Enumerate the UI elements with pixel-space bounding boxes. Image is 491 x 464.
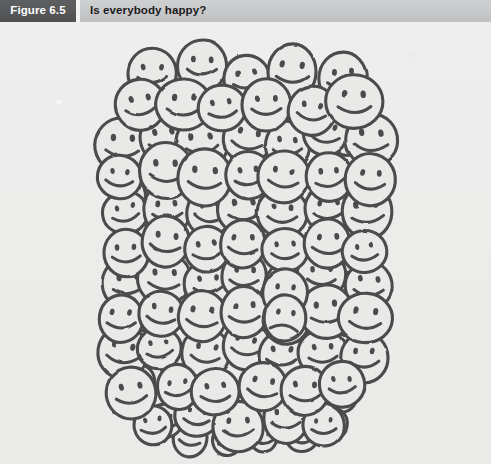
face-outline [96, 154, 143, 201]
smiley-face [341, 229, 389, 274]
smiley-face [242, 79, 291, 132]
figure-number-label: Figure 6.5 [10, 5, 65, 17]
smiley-face [221, 287, 267, 338]
face-outline [219, 218, 267, 269]
figure-title: Is everybody happy? [90, 5, 206, 17]
face-outline [99, 295, 143, 343]
face-outline [177, 148, 233, 207]
smiley-crowd-illustration [0, 22, 491, 464]
smiley-face [96, 154, 143, 201]
face-eye [209, 57, 214, 64]
face-outline [242, 79, 291, 132]
face-outline [341, 229, 389, 274]
face-outline [221, 287, 267, 338]
face-outline [318, 360, 366, 409]
smiley-face [99, 295, 143, 343]
face-outline [325, 74, 384, 129]
smiley-face [318, 360, 366, 409]
figure-caption-bar: Figure 6.5 Is everybody happy? [0, 0, 491, 22]
face-outline [190, 368, 240, 416]
smiley-face [177, 148, 233, 207]
face-outline [262, 228, 309, 271]
figure-number-box: Figure 6.5 [0, 0, 76, 22]
smiley-face [325, 74, 384, 129]
figure-artwork-region [0, 22, 491, 464]
smiley-face [219, 218, 267, 269]
smiley-face [190, 368, 240, 416]
figure-page: Figure 6.5 Is everybody happy? [0, 0, 491, 464]
smiley-face [262, 228, 309, 271]
face-outline [337, 291, 394, 344]
figure-title-container: Is everybody happy? [80, 0, 491, 22]
smiley-face [337, 291, 394, 344]
